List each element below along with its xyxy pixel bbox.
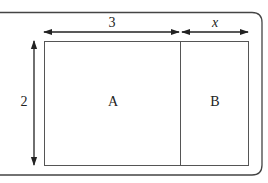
height-label-2: 2 (21, 94, 28, 109)
width-label-3: 3 (109, 15, 116, 30)
width-label-x: x (211, 15, 219, 30)
region-label-a: A (108, 94, 119, 109)
area-diagram: 3 x 2 A B (0, 0, 268, 183)
region-label-b: B (210, 94, 219, 109)
outer-frame (0, 13, 262, 176)
